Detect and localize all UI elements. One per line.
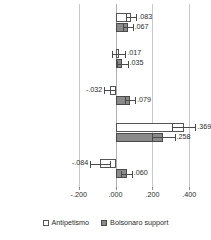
error-bar-cap [128, 61, 129, 68]
value-label: .017 [127, 49, 141, 57]
error-bar [123, 27, 132, 28]
error-bar-cap [152, 134, 153, 141]
error-bar [104, 90, 115, 91]
value-label: .083 [138, 13, 152, 21]
error-bar-cap [126, 14, 127, 21]
error-bar-cap [136, 14, 137, 21]
error-bar-cap [117, 61, 118, 68]
error-bar [172, 127, 195, 128]
value-label: .035 [130, 59, 144, 67]
error-bar-cap [125, 97, 126, 104]
value-label: .067 [135, 23, 149, 31]
coefficient-plot: Anti-crime att..083.067Anti-imm. att..01… [0, 0, 211, 240]
x-tick-label: .400 [182, 191, 196, 199]
error-bar-cap [175, 134, 176, 141]
category-row: Economic discontent-.084.060 [64, 150, 204, 187]
error-bar-cap [195, 124, 196, 131]
legend-item: Antipetismo [43, 218, 90, 227]
value-label: -.084 [72, 159, 88, 167]
x-axis: -.200.000.200.400 [64, 187, 204, 203]
value-label: .060 [134, 169, 148, 177]
error-bar-cap [110, 161, 111, 168]
legend-label: Antipetismo [52, 218, 90, 227]
legend-item: Bolsonaro support [101, 218, 168, 227]
error-bar [117, 64, 128, 65]
error-bar-cap [172, 124, 173, 131]
error-bar-cap [133, 24, 134, 31]
error-bar [126, 17, 137, 18]
error-bar [112, 54, 125, 55]
error-bar-cap [90, 161, 91, 168]
error-bar-cap [104, 87, 105, 94]
category-row: Ethnonationalism-.032.079 [64, 77, 204, 114]
gray-square-icon [101, 220, 107, 226]
error-bar [121, 174, 131, 175]
error-bar-cap [112, 51, 113, 58]
error-bar-cap [115, 87, 116, 94]
value-label: .369 [197, 123, 211, 131]
x-tick-label: .200 [145, 191, 159, 199]
error-bar-cap [125, 51, 126, 58]
error-bar-cap [123, 24, 124, 31]
value-label: .079 [137, 96, 151, 104]
chart-legend: AntipetismoBolsonaro support [0, 218, 211, 227]
white-square-icon [43, 220, 49, 226]
plot-area: Anti-crime att..083.067Anti-imm. att..01… [64, 4, 204, 187]
error-bar [125, 100, 135, 101]
error-bar-cap [121, 171, 122, 178]
error-bar-cap [135, 97, 136, 104]
category-row: Anti-imm. att..017.035 [64, 41, 204, 78]
legend-label: Bolsonaro support [110, 218, 168, 227]
error-bar-cap [132, 171, 133, 178]
category-row: Anti-corruption.369.258 [64, 114, 204, 151]
error-bar [152, 137, 175, 138]
x-tick-label: -.200 [71, 191, 87, 199]
error-bar [90, 164, 110, 165]
category-row: Anti-crime att..083.067 [64, 4, 204, 41]
x-tick-label: .000 [109, 191, 123, 199]
value-label: -.032 [86, 86, 102, 94]
value-label: .258 [177, 133, 191, 141]
